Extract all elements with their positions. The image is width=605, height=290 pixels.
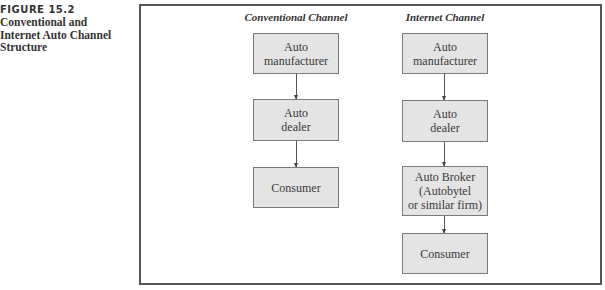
internet-consumer-box: Consumer [402,233,488,274]
internet-channel-title: Internet Channel [365,11,525,23]
conventional-consumer-box: Consumer [253,167,339,208]
box-text: manufacturer [413,54,477,68]
box-text: Auto Broker [415,170,475,184]
box-text: Auto [433,107,457,121]
internet-broker-box: Auto Broker (Autobytel or similar firm) [402,166,488,216]
box-text: Auto [433,40,457,54]
figure-title-line: Structure [0,41,132,54]
conventional-manufacturer-box: Auto manufacturer [253,33,339,74]
figure-label: FIGURE 15.2 [0,3,132,16]
box-text: dealer [281,120,310,134]
internet-manufacturer-box: Auto manufacturer [402,33,488,74]
box-text: manufacturer [264,54,328,68]
box-text: (Autobytel [419,184,471,198]
arrow-down-icon [296,74,297,99]
arrow-down-icon [444,74,445,100]
arrow-down-icon [444,216,445,233]
conventional-channel-title: Conventional Channel [216,11,376,23]
internet-dealer-box: Auto dealer [402,100,488,142]
diagram-frame [139,4,602,285]
conventional-dealer-box: Auto dealer [253,99,339,141]
figure-title: Conventional and Internet Auto Channel S… [0,16,132,54]
box-text: Consumer [420,247,469,261]
box-text: Auto [284,40,308,54]
box-text: dealer [430,121,459,135]
arrow-down-icon [444,142,445,166]
figure-caption: FIGURE 15.2 Conventional and Internet Au… [0,3,132,54]
figure-title-line: Conventional and [0,16,132,29]
box-text: Consumer [271,181,320,195]
arrow-down-icon [296,141,297,167]
box-text: or similar firm) [408,198,482,212]
box-text: Auto [284,106,308,120]
figure-title-line: Internet Auto Channel [0,29,132,42]
